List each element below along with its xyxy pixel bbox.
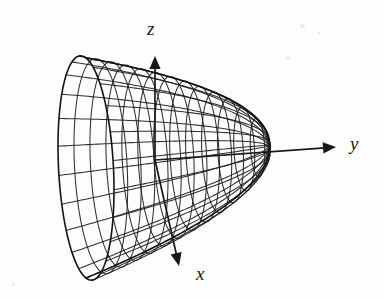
figure-container: z y x — [0, 0, 383, 298]
paraboloid-wireframe-plot — [0, 0, 383, 298]
axis-label-x: x — [196, 264, 204, 283]
surface-mesh — [58, 56, 271, 280]
axis-arrowhead-x — [171, 252, 182, 266]
axis-arrowhead-z — [149, 56, 160, 69]
surface-meridian — [100, 84, 270, 146]
surface-meridian — [79, 146, 270, 269]
axis-label-z: z — [147, 19, 154, 38]
surface-ring — [90, 62, 141, 267]
surface-rim-ring — [58, 56, 114, 280]
axis-arrowhead-y — [323, 142, 336, 153]
surface-meridian — [100, 146, 270, 274]
surface-meridian — [106, 146, 270, 261]
axis-label-y: y — [350, 134, 358, 153]
